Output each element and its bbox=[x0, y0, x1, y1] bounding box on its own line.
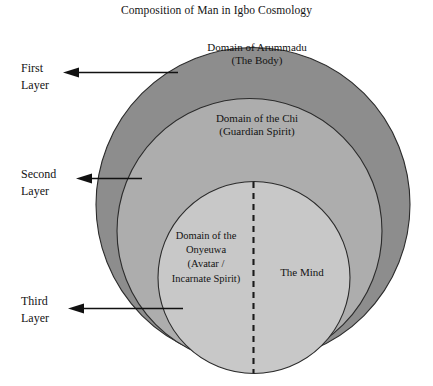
layer-label-first: First Layer bbox=[21, 60, 49, 93]
diagram-canvas: Composition of Man in Igbo Cosmology Dom… bbox=[0, 0, 433, 386]
pointer-arrow-first-layer bbox=[63, 68, 178, 78]
region-label-onyeuwa: Domain of the Onyeuwa (Avatar / Incarnat… bbox=[160, 229, 252, 286]
page-title: Composition of Man in Igbo Cosmology bbox=[0, 4, 433, 18]
layer-label-second: Second Layer bbox=[21, 166, 56, 199]
region-label-arummadu: Domain of Arummadu (The Body) bbox=[137, 41, 377, 67]
layer-label-third: Third Layer bbox=[21, 293, 49, 326]
region-label-chi: Domain of the Chi (Guardian Spirit) bbox=[137, 112, 377, 138]
region-label-the-mind: The Mind bbox=[258, 266, 346, 279]
